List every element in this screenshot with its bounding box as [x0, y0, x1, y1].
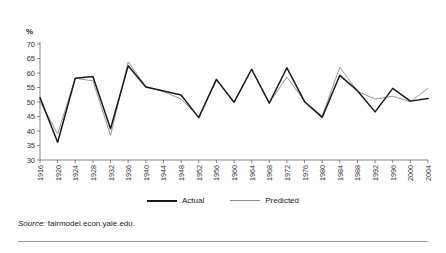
- x-tick-label: 1952: [194, 165, 203, 181]
- legend-label-predicted: Predicted: [265, 196, 299, 205]
- line-chart-svg: 303540455055606570: [18, 38, 430, 166]
- y-axis-group: 303540455055606570: [27, 40, 40, 165]
- y-tick-label: 65: [27, 54, 35, 63]
- x-tick-label: 1916: [36, 165, 45, 181]
- source-prefix: Source:: [18, 219, 46, 228]
- legend-swatch-predicted-icon: [230, 200, 260, 201]
- x-tick-label: 2000: [406, 165, 415, 181]
- x-tick-label: 1944: [159, 165, 168, 181]
- source-note: Source: fairmodel.econ.yale.edu.: [18, 219, 135, 228]
- chart-figure: % 303540455055606570 1916192019241928193…: [0, 0, 446, 253]
- x-tick-label: 1976: [300, 165, 309, 181]
- x-tick-label: 1964: [247, 165, 256, 181]
- chart-legend: Actual Predicted: [0, 196, 446, 205]
- x-tick-label: 1928: [88, 165, 97, 181]
- x-tick-label: 1960: [230, 165, 239, 181]
- x-tick-label: 1932: [106, 165, 115, 181]
- x-tick-label: 1924: [71, 165, 80, 181]
- y-tick-label: 70: [27, 40, 35, 49]
- legend-swatch-actual-icon: [147, 200, 177, 202]
- legend-item-actual: Actual: [147, 196, 204, 205]
- x-tick-label: 1992: [371, 165, 380, 181]
- series-line-predicted: [40, 62, 428, 135]
- x-tick-label: 1980: [318, 165, 327, 181]
- x-tick-label: 1936: [124, 165, 133, 181]
- y-tick-label: 45: [27, 112, 35, 121]
- y-tick-label: 35: [27, 141, 35, 150]
- y-tick-label: 30: [27, 156, 35, 165]
- x-tick-label: 1940: [141, 165, 150, 181]
- y-tick-label: 60: [27, 69, 35, 78]
- source-text: fairmodel.econ.yale.edu.: [48, 219, 135, 228]
- legend-item-predicted: Predicted: [230, 196, 299, 205]
- y-tick-label: 50: [27, 98, 35, 107]
- x-tick-label: 2004: [424, 165, 433, 181]
- x-tick-label: 1956: [212, 165, 221, 181]
- y-tick-label: 40: [27, 127, 35, 136]
- series-line-actual: [40, 66, 428, 143]
- footer-divider: [18, 241, 428, 242]
- x-tick-label: 1948: [177, 165, 186, 181]
- x-tick-label: 1984: [335, 165, 344, 181]
- x-tick-label: 1920: [53, 165, 62, 181]
- x-tick-label: 1968: [265, 165, 274, 181]
- y-tick-label: 55: [27, 83, 35, 92]
- y-axis-unit-label: %: [26, 27, 33, 36]
- plot-area: 303540455055606570: [18, 38, 430, 166]
- x-tick-label: 1996: [388, 165, 397, 181]
- x-tick-label: 1972: [282, 165, 291, 181]
- series-group: [40, 62, 428, 142]
- legend-label-actual: Actual: [182, 196, 204, 205]
- x-tick-label: 1988: [353, 165, 362, 181]
- x-axis-group: [40, 160, 428, 163]
